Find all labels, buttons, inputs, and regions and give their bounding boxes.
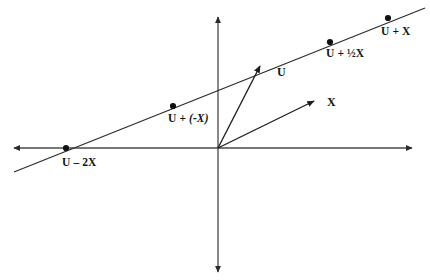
label-u-plus-neg-x-lead: U + — [168, 112, 189, 124]
label-u-point-text: U — [277, 65, 286, 79]
label-u-plus-neg-x-paren: (-X) — [189, 112, 209, 124]
label-u-plus-x-text: U + X — [381, 25, 410, 37]
label-u-point: U — [277, 66, 286, 78]
diagram-canvas — [0, 0, 430, 280]
point-u-plus-half-x — [327, 39, 333, 45]
label-u-minus-2x-text: U – 2X — [62, 156, 96, 168]
label-u-plus-half-x: U + ½X — [326, 48, 364, 60]
label-u-plus-x: U + X — [381, 26, 410, 38]
point-u-plus-x — [385, 15, 391, 21]
vector-x-arrow — [218, 101, 314, 148]
label-u-minus-2x: U – 2X — [62, 157, 96, 169]
vector-u-arrow — [218, 66, 260, 148]
label-vector-x-text: X — [327, 95, 336, 109]
vector-line-diagram: U – 2X U + (-X) U U + ½X U + X X — [0, 0, 430, 280]
label-vector-x: X — [327, 96, 336, 108]
label-u-plus-half-x-text: U + ½X — [326, 47, 364, 59]
point-u-minus-2x — [63, 145, 69, 151]
label-u-plus-neg-x: U + (-X) — [168, 113, 209, 125]
point-u-plus-neg-x — [170, 103, 176, 109]
